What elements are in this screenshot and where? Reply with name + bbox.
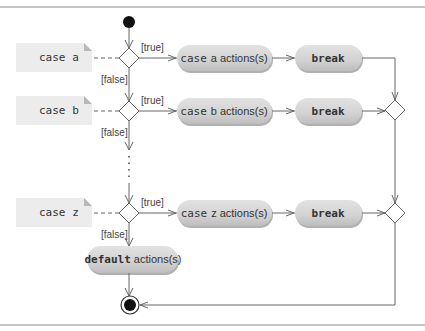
break-a: break: [295, 45, 363, 73]
activity-diagram: case a [true] caseaactions(s) break [fal…: [0, 0, 425, 331]
edge-break-a-to-merge: [362, 58, 395, 100]
case-b-row: case b [true] casebactions(s) break [fal…: [16, 95, 405, 203]
svg-text:case a: case a: [39, 51, 79, 64]
guard-false-b: [false]: [101, 127, 128, 138]
note-case-b: case b: [16, 96, 92, 125]
action-case-a: caseaactions(s): [177, 45, 273, 73]
note-case-a: case a: [16, 43, 92, 72]
guard-false-z: [false]: [101, 229, 128, 240]
decision-a-icon: [119, 48, 139, 68]
guard-false-a: [false]: [101, 74, 128, 85]
guard-true-z: [true]: [141, 197, 164, 208]
case-a-row: case a [true] caseaactions(s) break [fal…: [16, 42, 398, 101]
case-z-row: case z [true] casezactions(s) break [fal…: [16, 183, 405, 308]
note-keyword: case: [39, 51, 66, 64]
note-value: a: [72, 51, 79, 64]
svg-text:casebactions(s): casebactions(s): [180, 105, 267, 118]
initial-node-icon: [123, 16, 135, 28]
svg-text:break: break: [311, 207, 344, 220]
svg-text:casezactions(s): casezactions(s): [181, 207, 268, 220]
svg-text:caseaactions(s): caseaactions(s): [180, 52, 267, 65]
svg-text:break: break: [311, 105, 344, 118]
svg-text:case z: case z: [39, 206, 79, 219]
decision-b-icon: [119, 101, 139, 121]
merge-1-icon: [385, 100, 405, 120]
svg-text:case b: case b: [39, 104, 79, 117]
merge-2-icon: [385, 203, 405, 223]
action-case-b: casebactions(s): [177, 98, 273, 126]
break-z: break: [295, 200, 363, 228]
guard-true-a: [true]: [141, 42, 164, 53]
guard-true-b: [true]: [141, 95, 164, 106]
final-node-icon: [121, 296, 139, 314]
svg-text:break: break: [311, 52, 344, 65]
action-case-z: casezactions(s): [177, 200, 273, 228]
note-case-z: case z: [16, 198, 92, 227]
break-b: break: [295, 98, 363, 126]
decision-z-icon: [119, 203, 139, 223]
action-default: defaultactions(s): [84, 246, 181, 275]
svg-text:defaultactions(s): defaultactions(s): [84, 253, 181, 266]
